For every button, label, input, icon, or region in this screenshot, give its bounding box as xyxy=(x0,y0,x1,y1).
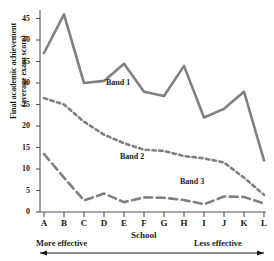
less-effective-label: Less effective xyxy=(194,239,242,248)
y-tick-label-5: 5 xyxy=(14,186,30,195)
series-annotation-band-2: Band 2 xyxy=(120,152,144,161)
series-line-band-2 xyxy=(44,98,264,195)
y-tick-marks xyxy=(36,19,40,213)
y-tick-label-20: 20 xyxy=(14,121,30,130)
y-tick-label-25: 25 xyxy=(14,100,30,109)
series-annotation-band-1: Band 1 xyxy=(106,78,130,87)
x-tick-label-a: A xyxy=(37,218,51,228)
x-tick-label-l: L xyxy=(257,218,271,228)
y-tick-label-15: 15 xyxy=(14,143,30,152)
y-tick-label-10: 10 xyxy=(14,164,30,173)
x-tick-label-g: G xyxy=(157,218,171,228)
x-tick-label-i: I xyxy=(197,218,211,228)
y-tick-label-0: 0 xyxy=(14,207,30,216)
series-line-band-3 xyxy=(44,154,264,204)
effectiveness-arrow xyxy=(40,251,264,256)
x-tick-label-j: J xyxy=(217,218,231,228)
x-tick-label-c: C xyxy=(77,218,91,228)
series-annotation-band-3: Band 3 xyxy=(180,177,204,186)
more-effective-label: More effective xyxy=(36,239,87,248)
x-tick-label-b: B xyxy=(57,218,71,228)
y-tick-label-45: 45 xyxy=(14,14,30,23)
y-tick-label-30: 30 xyxy=(14,78,30,87)
x-tick-label-f: F xyxy=(137,218,151,228)
y-tick-label-35: 35 xyxy=(14,57,30,66)
x-tick-label-d: D xyxy=(97,218,111,228)
series-line-band-1 xyxy=(44,14,264,160)
x-tick-label-e: E xyxy=(117,218,131,228)
chart-container: Final academic achievement (average exam… xyxy=(0,0,274,261)
x-tick-label-h: H xyxy=(177,218,191,228)
x-axis-title: School xyxy=(131,230,157,240)
y-tick-label-40: 40 xyxy=(14,35,30,44)
x-tick-label-k: K xyxy=(237,218,251,228)
x-tick-marks xyxy=(44,212,264,217)
